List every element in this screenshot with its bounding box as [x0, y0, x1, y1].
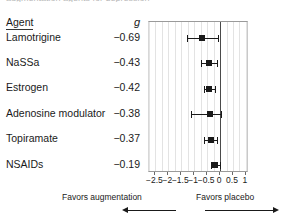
agent-label: NaSSa [6, 57, 39, 68]
gridline [181, 22, 182, 171]
left-arrow-line [128, 210, 176, 211]
effect-size-value: −0.38 [88, 108, 140, 119]
right-arrow-line [205, 210, 273, 211]
favors-augmentation-label: Favors augmentation [62, 192, 142, 202]
ci-cap-upper [218, 35, 219, 42]
agent-label: Topiramate [6, 133, 58, 144]
plot-area [148, 21, 248, 172]
ci-cap-lower [204, 137, 205, 144]
effect-size-marker [207, 111, 213, 117]
cut-off-caption: augmentation agents for depression [6, 0, 156, 2]
forest-row-nsaids [149, 165, 247, 166]
effect-size-marker [206, 86, 212, 92]
ci-cap-upper [221, 111, 222, 118]
gridline [162, 22, 163, 171]
column-header-g: g [88, 17, 140, 28]
gridline [149, 22, 150, 171]
gridline [194, 22, 195, 171]
favors-placebo-label: Favors placebo [196, 192, 254, 202]
effect-size-value: −0.37 [88, 133, 140, 144]
gridline [214, 22, 215, 171]
ci-cap-lower [191, 111, 192, 118]
ci-cap-upper [217, 60, 218, 67]
gridline [246, 22, 247, 171]
forest-plot-figure: augmentation agents for depression Agent… [0, 0, 286, 220]
effect-size-value: −0.69 [88, 32, 140, 43]
gridline [155, 22, 156, 171]
ci-cap-lower [204, 86, 205, 93]
forest-row-estrogen [149, 89, 247, 90]
effect-size-value: −0.19 [88, 159, 140, 170]
gridline [168, 22, 169, 171]
ci-cap-upper [220, 162, 221, 169]
agent-label: Estrogen [6, 82, 48, 93]
forest-row-topiramate [149, 140, 247, 141]
gridline [239, 22, 240, 171]
gridline [201, 22, 202, 171]
ci-cap-lower [201, 60, 202, 67]
effect-size-value: −0.43 [88, 57, 140, 68]
gridline [207, 22, 208, 171]
gridline [227, 22, 228, 171]
zero-reference-line [220, 22, 221, 171]
gridline [188, 22, 189, 171]
agent-label: NSAIDs [6, 159, 43, 170]
ci-cap-upper [217, 137, 218, 144]
ci-cap-upper [215, 86, 216, 93]
right-arrow-head-icon [273, 207, 279, 213]
gridline [175, 22, 176, 171]
axis-tick-label: 1 [235, 176, 255, 185]
effect-size-marker [199, 35, 205, 41]
forest-row-nassa [149, 63, 247, 64]
effect-size-marker [212, 162, 218, 168]
forest-row-lamotrigine [149, 38, 247, 39]
effect-size-marker [206, 60, 212, 66]
gridline [233, 22, 234, 171]
confidence-interval-line [191, 114, 221, 115]
forest-row-adenosine-modulator [149, 114, 247, 115]
effect-size-marker [208, 137, 214, 143]
column-header-agent: Agent [6, 17, 33, 30]
ci-cap-lower [187, 35, 188, 42]
agent-label: Lamotrigine [6, 32, 61, 43]
effect-size-value: −0.42 [88, 82, 140, 93]
left-arrow-head-icon [122, 207, 128, 213]
